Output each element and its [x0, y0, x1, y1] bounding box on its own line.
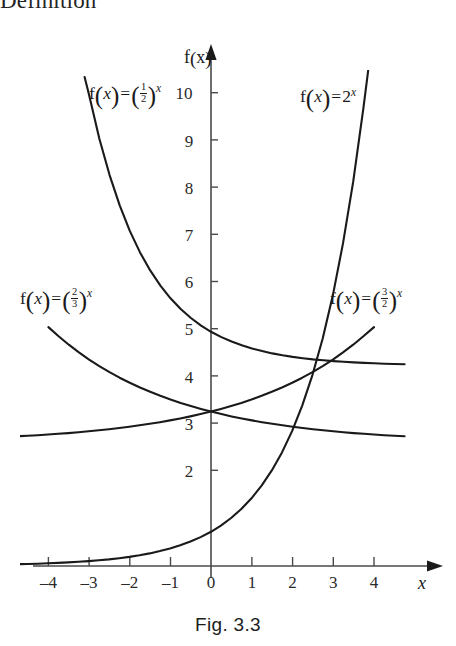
curve-label-half-power-x: f(x)=(12)x [89, 82, 161, 108]
x-tick-label-3: 3 [318, 573, 348, 593]
y-tick-label-5: 5 [178, 320, 200, 340]
label-eq-twothirds: = [51, 288, 61, 308]
x-tick-label-0: 0 [196, 573, 226, 593]
exponential-functions-chart: f(x) x 2 3 4 5 6 7 8 9 10 –4 –3 –2 –1 0 … [0, 0, 456, 610]
label-eq-two: = [331, 86, 341, 106]
label-var-twothirds: x [34, 288, 42, 308]
y-tick-label-6: 6 [178, 273, 200, 293]
curve-two-thirds-power-x [48, 327, 404, 436]
figure-caption: Fig. 3.3 [0, 614, 456, 636]
x-tick-label-neg2: –2 [115, 573, 145, 593]
label-den-threehalves: 2 [381, 299, 388, 310]
label-var-threehalves: x [344, 288, 352, 308]
label-exp-two: x [351, 86, 356, 98]
curve-label-two-thirds-power-x: f(x)=(23)x [20, 287, 92, 313]
label-den-twothirds: 3 [71, 299, 78, 310]
label-exp-half: x [156, 82, 161, 94]
x-tick-label-neg1: –1 [156, 573, 186, 593]
x-tick-label-2: 2 [278, 573, 308, 593]
y-tick-label-3: 3 [178, 415, 200, 435]
y-tick-label-7: 7 [178, 226, 200, 246]
x-tick-label-4: 4 [359, 573, 389, 593]
curve-label-three-halves-power-x: f(x)=(32)x [330, 287, 402, 313]
label-exp-twothirds: x [87, 287, 92, 299]
y-axis-label: f(x) [184, 47, 212, 70]
label-num-threehalves: 3 [381, 287, 388, 299]
figure-page: Definition [0, 0, 456, 646]
y-tick-label-2: 2 [178, 462, 200, 482]
label-den-half: 2 [140, 94, 147, 105]
y-tick-label-4: 4 [178, 368, 200, 388]
curve-half-power-x [85, 77, 405, 364]
label-base-two: 2 [342, 86, 351, 106]
y-tick-label-9: 9 [178, 132, 200, 152]
curve-label-two-power-x: f(x)=2x [300, 86, 356, 111]
label-exp-threehalves: x [397, 287, 402, 299]
y-tick-label-10: 10 [168, 84, 200, 104]
label-var-two: x [314, 86, 322, 106]
label-eq-half: = [120, 83, 130, 103]
x-tick-label-1: 1 [237, 573, 267, 593]
label-num-twothirds: 2 [71, 287, 78, 299]
label-var-half: x [103, 83, 111, 103]
x-axis-label: x [418, 573, 426, 594]
x-axis-arrowhead [427, 561, 443, 572]
x-tick-label-neg4: –4 [33, 573, 63, 593]
label-num-half: 1 [140, 82, 147, 94]
x-tick-label-neg3: –3 [74, 573, 104, 593]
label-eq-threehalves: = [361, 288, 371, 308]
y-tick-label-8: 8 [178, 179, 200, 199]
